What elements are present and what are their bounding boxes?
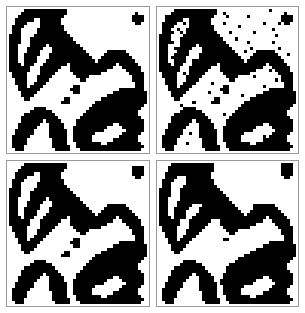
figure-container	[0, 0, 305, 313]
panel-bottom-left[interactable]	[6, 160, 150, 308]
panel-top-left[interactable]	[6, 6, 150, 154]
panel-top-right[interactable]	[156, 6, 300, 154]
panel-top-right-canvas	[159, 9, 297, 151]
panel-top-left-canvas	[9, 9, 147, 151]
panel-bottom-right-canvas	[159, 163, 297, 305]
panel-bottom-left-canvas	[9, 163, 147, 305]
panel-grid	[6, 6, 299, 307]
panel-bottom-right[interactable]	[156, 160, 300, 308]
